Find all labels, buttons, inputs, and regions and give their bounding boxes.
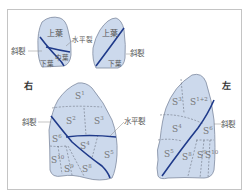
right-side-label: 右 bbox=[23, 80, 33, 91]
lobe-lower-label: 下葉 bbox=[40, 59, 54, 68]
lobe-upper-label-left: 上葉 bbox=[102, 28, 118, 38]
left-lung: S3 S1+2 S4 S5 S6 S8 S9 S10 bbox=[157, 74, 219, 178]
lung-diagram: 上葉 中葉 下葉 斜裂 水平裂 上葉 下葉 斜裂 右 S1 S2 S3 S4 S… bbox=[0, 0, 250, 196]
oblique-fissure-label-right: 斜裂 bbox=[22, 117, 37, 127]
small-right-lung: 上葉 中葉 下葉 bbox=[38, 17, 71, 68]
small-left-lung: 上葉 下葉 bbox=[93, 18, 126, 68]
oblique-fissure-label-small-right: 斜裂 bbox=[11, 46, 26, 56]
horizontal-fissure-label-small: 水平裂 bbox=[72, 35, 93, 44]
oblique-fissure-label-left: 斜裂 bbox=[221, 119, 236, 129]
right-lung: S1 S2 S3 S4 S5 S6 S8 S9 S10 bbox=[49, 83, 117, 180]
horizontal-fissure-label-right: 水平裂 bbox=[124, 116, 146, 126]
lobe-lower-label-left: 下葉 bbox=[108, 59, 122, 68]
oblique-fissure-label-small-left: 斜裂 bbox=[130, 48, 145, 58]
lobe-upper-label: 上葉 bbox=[47, 28, 63, 38]
lobe-middle-label: 中葉 bbox=[55, 53, 69, 62]
left-side-label: 左 bbox=[221, 80, 231, 91]
